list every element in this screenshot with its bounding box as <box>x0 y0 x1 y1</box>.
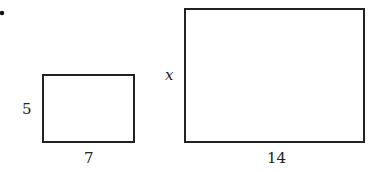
similar-rectangles-diagram: 5 7 x 14 <box>0 0 376 172</box>
small-rectangle-width-label: 7 <box>84 149 94 167</box>
small-rectangle-height-label: 5 <box>22 100 32 118</box>
small-rectangle <box>43 75 134 142</box>
large-rectangle <box>185 9 364 142</box>
large-rectangle-width-label: 14 <box>267 149 286 167</box>
bullet-marker <box>0 11 4 15</box>
large-rectangle-height-label: x <box>165 66 174 84</box>
